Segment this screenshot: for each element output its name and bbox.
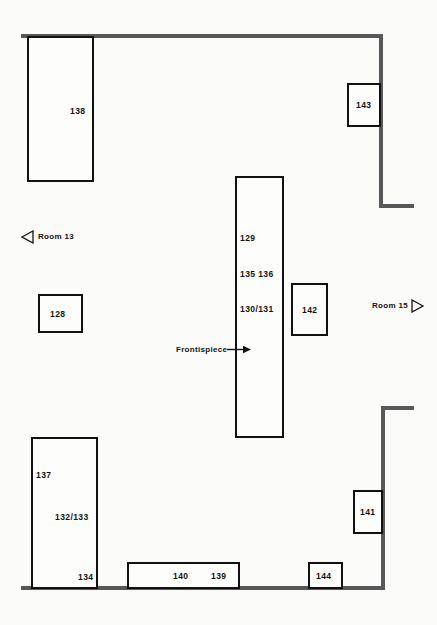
- frontispiece-annotation: Frontispiece: [176, 344, 254, 357]
- label-139: 139: [211, 572, 226, 581]
- label-130-131: 130/131: [240, 305, 274, 314]
- label-134: 134: [78, 573, 93, 582]
- room-15-label: Room 15: [372, 302, 408, 310]
- label-140: 140: [173, 572, 188, 581]
- frontispiece-label: Frontispiece: [176, 346, 227, 354]
- label-135-136: 135 136: [240, 270, 274, 279]
- triangle-left-icon: [21, 230, 34, 244]
- room-15-marker[interactable]: Room 15: [372, 298, 428, 314]
- label-129: 129: [240, 234, 255, 243]
- case-143-label: 143: [356, 101, 371, 110]
- floor-plan-diagram: 138 143 128 142 141 144 129 135 136 130/…: [0, 0, 437, 625]
- arrow-right-icon: [227, 345, 253, 354]
- case-128-label: 128: [50, 310, 65, 319]
- room-13-marker[interactable]: Room 13: [21, 229, 91, 245]
- case-138-label: 138: [70, 107, 85, 116]
- case-144-label: 144: [316, 572, 331, 581]
- label-132-133: 132/133: [55, 513, 89, 522]
- wall-lower-right-stub: [381, 406, 414, 410]
- case-142-label: 142: [302, 306, 317, 315]
- wall-upper-right-stub: [379, 204, 414, 208]
- case-141-label: 141: [360, 508, 375, 517]
- room-13-label: Room 13: [38, 233, 74, 241]
- triangle-right-icon: [411, 299, 424, 313]
- label-137: 137: [36, 471, 51, 480]
